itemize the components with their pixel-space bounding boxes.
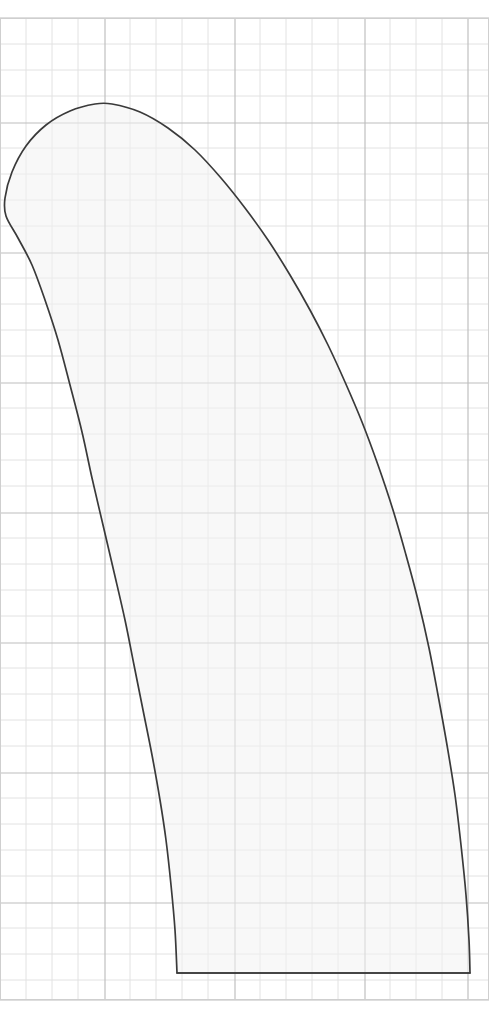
drawing-page [0, 0, 489, 1016]
graph-paper-canvas [0, 0, 489, 1016]
